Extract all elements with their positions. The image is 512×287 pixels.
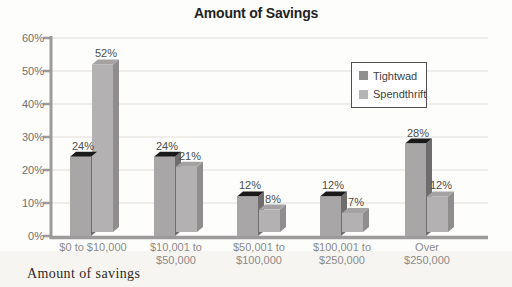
bar-spendthrift-side	[448, 191, 454, 232]
value-label-tightwad: 12%	[239, 179, 261, 191]
x-category-label: $10,001 to	[150, 241, 202, 253]
x-category-label: Over	[415, 241, 439, 253]
bar-spendthrift	[259, 210, 280, 232]
y-tick-label: 50%	[22, 65, 44, 77]
bar-tightwad	[237, 196, 258, 236]
value-label-spendthrift: 21%	[179, 150, 201, 162]
figure-caption: Amount of savings	[27, 266, 140, 282]
value-label-spendthrift: 8%	[265, 193, 281, 205]
bar-spendthrift-side	[113, 59, 119, 232]
y-tick-label: 60%	[22, 32, 44, 44]
legend-label-tightwad: Tightwad	[373, 70, 417, 82]
x-category-label: $0 to $10,000	[59, 241, 126, 253]
bar-spendthrift	[342, 213, 363, 232]
x-category-label: $50,000	[156, 254, 196, 266]
value-label-tightwad: 24%	[156, 140, 178, 152]
plot-svg: 0%10%20%30%40%50%60%24%52%$0 to $10,0002…	[0, 0, 512, 287]
bar-spendthrift-side	[197, 162, 203, 232]
x-category-label: $250,000	[319, 254, 365, 266]
legend-item-spendthrift: Spendthrift	[359, 88, 426, 100]
legend-label-spendthrift: Spendthrift	[373, 88, 426, 100]
y-tick-label: 0%	[28, 230, 44, 242]
bar-tightwad	[70, 157, 91, 236]
x-category-label: $50,001 to	[233, 241, 285, 253]
x-category-label: $100,001 to	[313, 241, 371, 253]
value-label-tightwad: 24%	[72, 140, 94, 152]
bar-spendthrift	[427, 196, 448, 232]
legend-swatch-spendthrift	[359, 90, 368, 99]
bar-spendthrift	[92, 64, 113, 232]
value-label-tightwad: 28%	[407, 127, 429, 139]
y-tick-label: 10%	[22, 197, 44, 209]
value-label-spendthrift: 7%	[348, 196, 364, 208]
bar-tightwad	[320, 196, 341, 236]
value-label-tightwad: 12%	[322, 179, 344, 191]
y-tick-label: 30%	[22, 131, 44, 143]
legend: Tightwad Spendthrift	[351, 62, 427, 108]
bar-tightwad	[154, 157, 175, 236]
legend-item-tightwad: Tightwad	[359, 70, 426, 82]
legend-swatch-tightwad	[359, 71, 368, 80]
value-label-spendthrift: 52%	[95, 47, 117, 59]
value-label-spendthrift: 12%	[430, 179, 452, 191]
bar-tightwad	[405, 144, 426, 236]
chart-figure: Amount of Savings 0%10%20%30%40%50%60%24…	[0, 0, 512, 287]
bar-spendthrift	[176, 167, 197, 232]
x-category-label: $100,000	[236, 254, 282, 266]
y-tick-label: 40%	[22, 98, 44, 110]
y-tick-label: 20%	[22, 164, 44, 176]
x-category-label: $250,000	[404, 254, 450, 266]
